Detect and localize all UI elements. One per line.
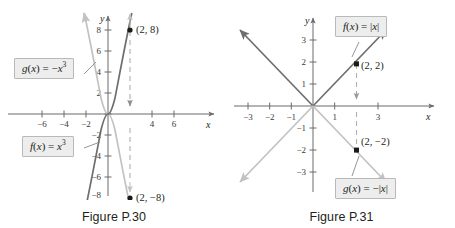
plot-svg-p30: −6 −4 −2 4 6 2	[0, 0, 228, 200]
callout-g-p31: g(x) = −|x|	[335, 178, 396, 199]
point-label-2-neg8-p30: (2, −8)	[136, 192, 165, 203]
callout-f-p31: f(x) = |x|	[335, 16, 387, 37]
point-label-2-8-p30: (2, 8)	[136, 24, 159, 35]
svg-text:1: 1	[302, 79, 307, 89]
leader-line-g-p31	[352, 156, 359, 176]
axes-p31	[234, 18, 434, 192]
leader-line-f-p31	[352, 42, 359, 57]
svg-text:−4: −4	[59, 119, 69, 129]
svg-text:6: 6	[172, 119, 177, 129]
svg-text:3: 3	[376, 112, 381, 122]
callout-f-text-p31: f(x) = |x|	[343, 20, 379, 32]
svg-text:−1: −1	[296, 123, 306, 133]
caption-p31: Figure P.31	[228, 210, 455, 224]
svg-text:1: 1	[332, 112, 337, 122]
callout-f-p30: f(x) = x3	[22, 136, 74, 157]
x-axis-label-p30: x	[205, 119, 211, 130]
curve-g-arrow-top-p30	[84, 13, 86, 22]
svg-text:−6: −6	[37, 119, 47, 129]
callout-g-text-p31: g(x) = −|x|	[343, 182, 388, 194]
x-tick-labels-p30: −6 −4 −2 4 6	[37, 119, 177, 129]
svg-text:−3: −3	[296, 167, 306, 177]
callout-g-text-p30: g(x) = −x3	[22, 62, 66, 74]
svg-text:−3: −3	[243, 112, 253, 122]
data-point-2-8-p30	[127, 27, 132, 32]
x-tick-labels-p31: −3 −2 −1 1 3	[243, 112, 381, 122]
svg-text:3: 3	[302, 35, 307, 45]
svg-text:−2: −2	[296, 145, 306, 155]
point-label-2-neg2-p31: (2, −2)	[361, 136, 390, 147]
figure-p31: −3 −2 −1 1 3 1 2 3	[228, 0, 455, 228]
callout-f-text-p30: f(x) = x3	[30, 140, 66, 152]
caption-p30: Figure P.30	[0, 210, 228, 224]
data-point-2-2-p31	[354, 61, 359, 66]
leader-line-g-p30	[84, 62, 96, 74]
svg-text:4: 4	[150, 119, 155, 129]
svg-text:6: 6	[97, 46, 102, 56]
svg-text:−8: −8	[91, 190, 101, 200]
point-label-2-2-p31: (2, 2)	[361, 60, 384, 71]
axes-p30	[8, 16, 214, 196]
y-axis-label-p31: y	[304, 15, 310, 26]
figure-pair-page: −6 −4 −2 4 6 2	[0, 0, 455, 228]
svg-text:8: 8	[97, 25, 102, 35]
svg-text:−1: −1	[287, 112, 297, 122]
callout-g-p30: g(x) = −x3	[14, 58, 74, 79]
svg-text:−2: −2	[265, 112, 275, 122]
figure-p30: −6 −4 −2 4 6 2	[0, 0, 228, 228]
plot-area-p30: −6 −4 −2 4 6 2	[0, 0, 228, 200]
y-axis-label-p30: y	[99, 13, 105, 24]
data-point-2-neg2-p31	[354, 148, 359, 153]
x-axis-label-p31: x	[425, 111, 431, 122]
svg-text:−2: −2	[81, 119, 91, 129]
svg-text:2: 2	[302, 57, 307, 67]
